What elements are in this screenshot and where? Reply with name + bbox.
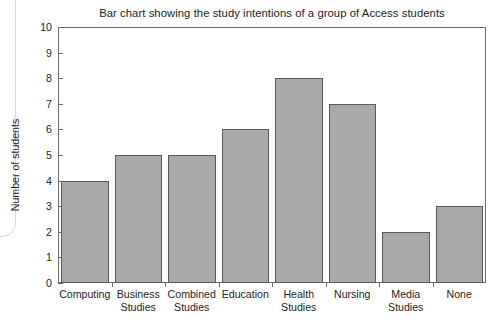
y-axis-tick-label-7: 7 [30,99,52,109]
bar [115,155,163,283]
x-axis-category-labels: ComputingBusinessStudiesCombinedStudiesE… [58,288,486,326]
bar [382,232,430,283]
y-axis-tick-7 [58,104,63,105]
x-axis-tick [433,283,434,287]
x-axis-label: None [427,288,493,301]
y-axis-tick-label-2: 2 [30,227,52,237]
y-axis-tick-label-6: 6 [30,124,52,134]
x-axis-tick [272,283,273,287]
y-axis-tick-5 [58,155,63,156]
y-axis-tick-9 [58,53,63,54]
y-axis-tick-label-8: 8 [30,73,52,83]
x-axis-tick [219,283,220,287]
y-axis-tick-label-3: 3 [30,201,52,211]
bar [61,181,109,283]
bar [329,104,377,283]
y-axis-tick-label-1: 1 [30,252,52,262]
x-axis-tick [112,283,113,287]
x-axis-tick [379,283,380,287]
bar [275,78,323,283]
y-axis-tick-label-10: 10 [30,22,52,32]
x-axis-tick [165,283,166,287]
y-axis-tick-10 [58,27,63,28]
y-axis-tick-label-0: 0 [30,278,52,288]
y-axis-title: Number of students [9,100,21,230]
y-axis-tick-label-5: 5 [30,150,52,160]
y-axis-tick-6 [58,129,63,130]
plot-area [58,27,486,283]
y-axis-tick-8 [58,78,63,79]
y-axis-tick-label-4: 4 [30,176,52,186]
bar [222,129,270,283]
x-axis-tick [326,283,327,287]
bar-chart-figure: Bar chart showing the study intentions o… [0,0,503,327]
y-axis-tick-labels: 109876543210 [30,27,52,283]
bar [436,206,484,283]
chart-title: Bar chart showing the study intentions o… [58,7,486,20]
y-axis-tick-label-9: 9 [30,48,52,58]
bar [168,155,216,283]
